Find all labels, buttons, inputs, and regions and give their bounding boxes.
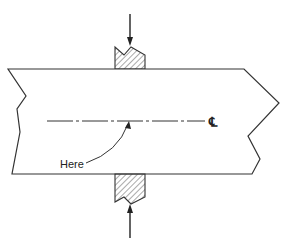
top-jaw-hatched: [115, 47, 145, 69]
here-label: Here: [60, 158, 84, 170]
centerline-symbol: ℄: [208, 114, 218, 129]
diagram-canvas: ℄ Here: [0, 0, 288, 250]
bottom-jaw-hatched: [115, 174, 145, 204]
top-force-arrow: [127, 14, 133, 46]
bottom-force-arrow: [127, 204, 133, 238]
